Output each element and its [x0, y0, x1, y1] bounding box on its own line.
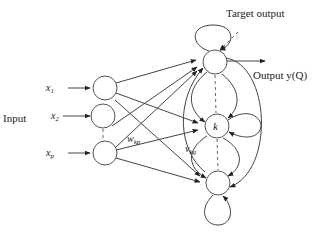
xp-label: xp — [45, 147, 54, 160]
target-output-arrow — [220, 32, 238, 50]
input-node-1 — [93, 76, 117, 100]
x2-label: x2 — [50, 110, 59, 123]
input-arrows — [63, 88, 90, 153]
x1-label: x1 — [45, 82, 54, 95]
input-node-2 — [91, 104, 115, 128]
input-label: Input — [3, 112, 26, 124]
wkp-label: wkp — [127, 133, 141, 146]
hidden-node-bottom — [206, 171, 230, 195]
input-layer — [91, 76, 117, 165]
hidden-node-top — [203, 50, 227, 74]
input-node-p — [93, 141, 117, 165]
feedforward-edges — [112, 60, 200, 182]
target-output-label: Target output — [226, 7, 285, 19]
output-label: Output y(Q) — [253, 69, 307, 82]
vkq-label: vkq — [185, 143, 197, 156]
recurrent-network-diagram: Target output Output y(Q) Input x1 x2 xp… — [0, 0, 320, 240]
